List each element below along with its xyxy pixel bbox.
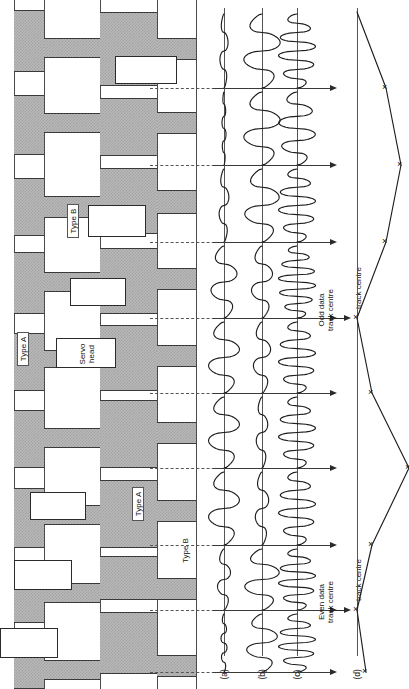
- track-centre-arrow-icon: [344, 607, 351, 613]
- figure-canvas: Type B Type A Servo head Type A Type B (…: [0, 0, 409, 689]
- track-centre-leader: [335, 318, 345, 319]
- position-error-path: [357, 12, 409, 672]
- track-centre-leader: [335, 610, 345, 611]
- data-point-marker: ×: [368, 388, 373, 397]
- data-point-marker: ×: [362, 667, 367, 676]
- track-centre-arrow-icon: [344, 315, 351, 321]
- data-point-marker: ×: [382, 83, 387, 92]
- data-point-marker: ×: [405, 463, 409, 472]
- data-point-marker: ×: [397, 160, 402, 169]
- data-point-marker: ×: [353, 605, 358, 614]
- position-error-line: [0, 0, 409, 689]
- data-point-marker: ×: [368, 540, 373, 549]
- data-point-marker: ×: [353, 313, 358, 322]
- data-point-marker: ×: [382, 237, 387, 246]
